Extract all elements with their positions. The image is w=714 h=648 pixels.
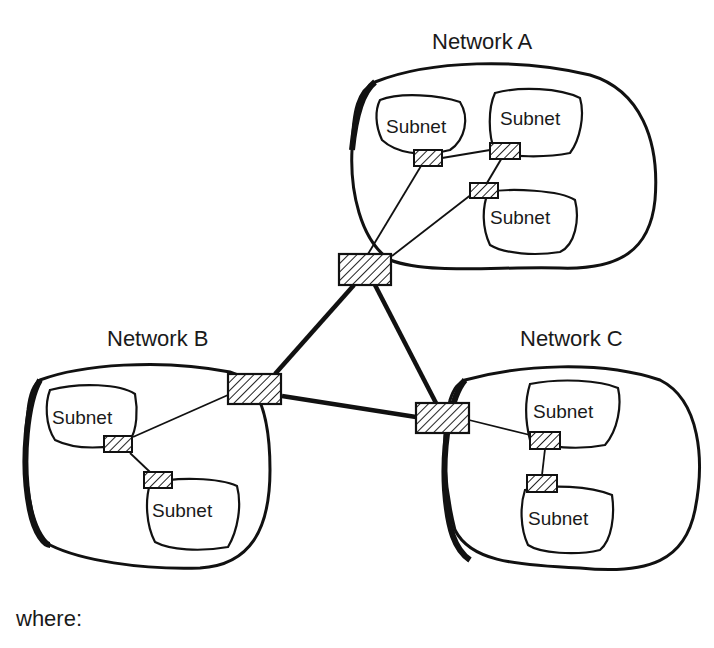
footer-where-text: where: <box>16 606 82 632</box>
gateway-b2-icon <box>144 472 172 488</box>
subnet-a2-label: Subnet <box>500 108 561 129</box>
network-b: Network B Subnet Subnet <box>25 326 270 568</box>
gateway-b1-icon <box>104 436 132 452</box>
router-b-icon <box>228 374 281 404</box>
subnet-c2-label: Subnet <box>528 508 589 529</box>
subnet-a1-label: Subnet <box>386 116 447 137</box>
gateway-a1-icon <box>414 150 442 166</box>
subnet-b2-label: Subnet <box>152 500 213 521</box>
gateway-c1-icon <box>530 432 560 449</box>
network-b-title: Network B <box>107 326 208 351</box>
gateway-a2-icon <box>490 143 520 159</box>
internetwork-diagram: Network A Subnet Subnet Subnet Network B… <box>0 0 714 648</box>
router-a-icon <box>339 254 391 285</box>
network-a-title: Network A <box>432 29 533 54</box>
subnet-b1-label: Subnet <box>52 407 113 428</box>
network-a: Network A Subnet Subnet Subnet <box>352 29 656 269</box>
gateway-c2-icon <box>527 475 557 492</box>
router-c-icon <box>416 403 469 433</box>
subnet-a3-label: Subnet <box>490 207 551 228</box>
network-c-title: Network C <box>520 326 623 351</box>
network-c: Network C Subnet Subnet <box>444 326 699 570</box>
backbone-links <box>275 285 436 417</box>
subnet-c1-label: Subnet <box>533 401 594 422</box>
gateway-a3-icon <box>470 183 498 198</box>
